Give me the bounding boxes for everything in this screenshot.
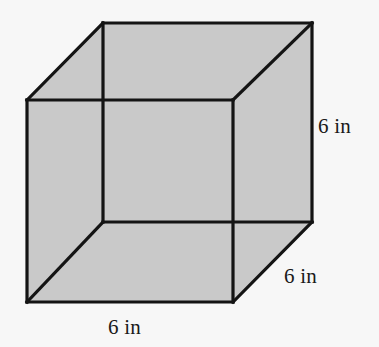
dimension-label-width: 6 in: [108, 317, 141, 338]
cube-diagram: [0, 0, 379, 347]
dimension-label-depth: 6 in: [284, 266, 317, 287]
geometry-figure: 6 in 6 in 6 in: [0, 0, 379, 347]
dimension-label-height: 6 in: [318, 116, 351, 137]
